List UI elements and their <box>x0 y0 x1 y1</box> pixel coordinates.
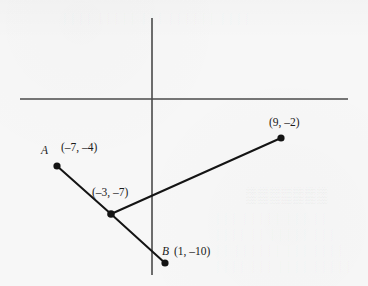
point-a-coord-label: (–7, –4) <box>61 142 97 154</box>
plot-canvas <box>0 0 368 286</box>
point-c-coord-label: (9, –2) <box>269 117 300 129</box>
point-c-dot <box>277 134 284 141</box>
midpoint-coord-label: (–3, –7) <box>92 187 128 199</box>
point-a-dot <box>53 162 60 169</box>
point-b-coord-label: (1, –10) <box>174 246 210 258</box>
coordinate-plane-figure: ▒▒▒▒ ▒▒▒▒▒ ▒▒▒ ▒▒▒▒▒▒ ▒▒▒▒ ▒▒▒▒▒▒▒ ▒▒▒ ▒… <box>0 0 368 286</box>
point-a-name-label: A <box>41 145 48 157</box>
point-midpoint-dot <box>107 210 115 218</box>
point-b-name-label: B <box>162 246 169 258</box>
segment-midpoint-to-c <box>111 138 281 214</box>
point-b-dot <box>161 259 168 266</box>
